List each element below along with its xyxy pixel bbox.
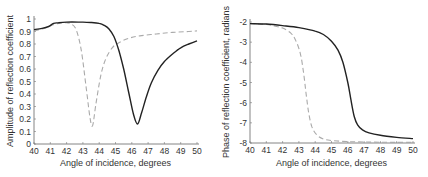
y-tick-label: -7 [239, 118, 247, 128]
x-tick-label: 47 [359, 145, 369, 155]
y-tick-label: 0.5 [19, 77, 31, 87]
axes [250, 19, 415, 143]
x-tick-label: 46 [127, 146, 137, 156]
x-tick-label: 50 [192, 146, 202, 156]
x-tick-label: 46 [343, 145, 353, 155]
y-tick-label: 1 [26, 14, 31, 24]
x-tick-label: 45 [111, 146, 121, 156]
series-solid-line [34, 22, 197, 124]
y-tick-label: -2 [239, 17, 247, 27]
y-tick-label: 0.8 [19, 39, 31, 49]
y-tick-label: -6 [239, 98, 247, 108]
y-tick-label: 0.9 [19, 27, 31, 37]
phase-chart: 4041424344454647484950-2-3-4-5-6-7-8Angl… [221, 6, 418, 168]
x-tick-label: 47 [143, 146, 153, 156]
x-tick-label: 41 [262, 145, 272, 155]
x-axis-label: Angle of incidence, degrees [276, 158, 388, 168]
y-tick-label: 0.3 [19, 102, 31, 112]
x-tick-label: 48 [160, 146, 170, 156]
axes [34, 16, 199, 144]
y-axis-label: Phase of reflection coefficient, radians [221, 6, 231, 158]
y-tick-label: -4 [239, 57, 247, 67]
y-tick-label: 0.6 [19, 64, 31, 74]
charts-figure: 404142434445464748495000.10.20.30.40.50.… [0, 0, 428, 177]
y-tick-label: 0.1 [19, 127, 31, 137]
y-tick-label: 0.2 [19, 114, 31, 124]
y-tick-label: 0.7 [19, 52, 31, 62]
x-tick-label: 50 [408, 145, 418, 155]
series-solid-line [250, 24, 413, 139]
x-tick-label: 45 [327, 145, 337, 155]
y-axis-label: Amplitude of reflection coefficient [5, 15, 15, 147]
y-tick-label: 0 [26, 139, 31, 149]
series-dashed-line [34, 23, 197, 127]
y-tick-label: -8 [239, 138, 247, 148]
x-tick-label: 49 [176, 146, 186, 156]
amplitude-chart: 404142434445464748495000.10.20.30.40.50.… [5, 14, 202, 168]
x-tick-label: 44 [310, 145, 320, 155]
y-tick-label: -3 [239, 37, 247, 47]
x-tick-label: 41 [46, 146, 56, 156]
x-tick-label: 42 [62, 146, 72, 156]
x-tick-label: 48 [376, 145, 386, 155]
x-tick-label: 44 [94, 146, 104, 156]
y-tick-label: 0.4 [19, 89, 31, 99]
x-tick-label: 42 [278, 145, 288, 155]
x-tick-label: 43 [78, 146, 88, 156]
x-axis-label: Angle of incidence, degrees [60, 158, 172, 168]
x-tick-label: 43 [294, 145, 304, 155]
y-tick-label: -5 [239, 78, 247, 88]
x-tick-label: 49 [392, 145, 402, 155]
